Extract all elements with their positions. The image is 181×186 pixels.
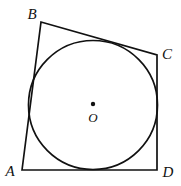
- vertex-label-d: D: [163, 165, 174, 180]
- figure-canvas: [0, 0, 181, 186]
- vertex-label-b: B: [27, 7, 36, 22]
- circle-center-dot: [91, 102, 95, 106]
- center-label-o: O: [88, 111, 97, 124]
- geometry-figure: A B C D O: [0, 0, 181, 186]
- vertex-label-c: C: [162, 47, 172, 62]
- figure-background: [0, 0, 181, 186]
- vertex-label-a: A: [5, 164, 14, 179]
